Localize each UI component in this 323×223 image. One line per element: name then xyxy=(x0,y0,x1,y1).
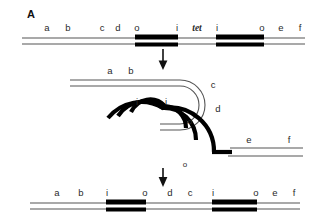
mid-label-i1: i xyxy=(136,96,138,107)
mid-label-e: e xyxy=(246,134,251,145)
bottom-black-segment-1-lower xyxy=(106,208,146,212)
top-label-tet: tet xyxy=(192,23,202,33)
top-black-segment-1-upper xyxy=(135,35,178,40)
top-label-o1: o xyxy=(134,22,139,33)
top-black-segment-2-lower xyxy=(216,43,264,47)
mid-label-f: f xyxy=(288,134,291,145)
stage-bottom-duplex: a b i o d c i o e f xyxy=(30,187,300,212)
top-label-a: a xyxy=(44,22,50,33)
top-label-c: c xyxy=(100,22,105,33)
top-label-e: e xyxy=(278,22,283,33)
bottom-label-o1: o xyxy=(142,187,147,198)
mid-label-o2: o xyxy=(183,160,188,169)
mid-label-a: a xyxy=(107,65,113,76)
bottom-label-e: e xyxy=(272,187,277,198)
bottom-label-f: f xyxy=(293,187,296,198)
top-label-i1: i xyxy=(176,22,178,33)
top-label-o2: o xyxy=(259,22,264,33)
mid-label-i2: i xyxy=(165,96,167,107)
bottom-label-o2: o xyxy=(253,187,258,198)
bottom-label-b: b xyxy=(78,187,83,198)
top-label-b: b xyxy=(65,22,70,33)
bottom-black-segment-1-upper xyxy=(106,200,146,205)
top-black-segment-1-lower xyxy=(135,43,178,47)
top-label-f: f xyxy=(299,22,302,33)
bottom-label-i1: i xyxy=(106,187,108,198)
bottom-label-c: c xyxy=(188,187,193,198)
arrow-step-1 xyxy=(159,49,168,70)
top-black-segment-2-upper xyxy=(216,35,264,40)
stage-middle-loop: a b c d i i o e f o xyxy=(70,65,303,169)
bottom-black-segment-2-upper xyxy=(212,200,257,205)
bottom-label-a: a xyxy=(54,187,60,198)
bottom-label-i2: i xyxy=(212,187,214,198)
top-label-i2: i xyxy=(216,22,218,33)
mid-label-c: c xyxy=(211,79,216,90)
bottom-label-d: d xyxy=(167,187,172,198)
mid-label-o1: o xyxy=(188,117,193,126)
arrow-step-2 xyxy=(159,168,168,187)
bottom-black-segment-2-lower xyxy=(212,208,257,212)
figure-panel-a: A a b c d o i tet i o e f xyxy=(0,0,323,223)
panel-letter: A xyxy=(27,8,35,20)
stage-top-duplex: a b c d o i tet i o e f xyxy=(22,22,305,47)
mid-label-d: d xyxy=(215,103,220,114)
mid-label-b: b xyxy=(128,65,133,76)
top-label-d: d xyxy=(115,22,120,33)
